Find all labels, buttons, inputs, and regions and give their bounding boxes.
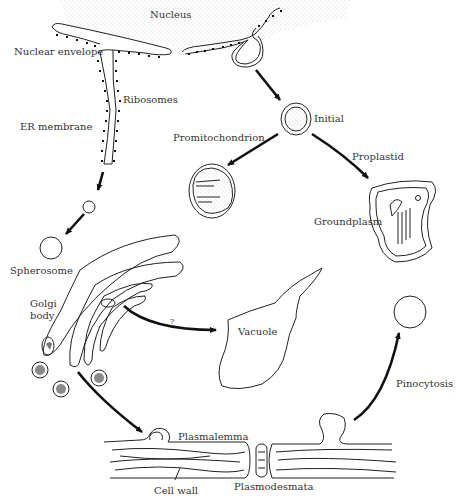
pinocytosis-vesicle [394, 296, 426, 328]
label-ribosomes: Ribosomes [123, 94, 178, 105]
cell-wall [104, 414, 396, 481]
label-pinocytosis: Pinocytosis [396, 378, 453, 389]
promitochondrion [189, 164, 235, 218]
label-spherosome: Spherosome [10, 265, 73, 276]
label-question: ? [170, 317, 174, 326]
label-plasmodesmata: Plasmodesmata [234, 481, 313, 492]
label-initial: Initial [314, 113, 344, 124]
initial-organelle [281, 103, 311, 135]
er-membrane [97, 50, 121, 164]
label-groundplasm: Groundplasm [314, 216, 383, 227]
cell-membrane-diagram: Nucleus Nuclear envelope Ribosomes ER me… [0, 0, 456, 504]
label-golgi: Golgi [30, 298, 57, 309]
label-plasmalemma: Plasmalemma [178, 431, 249, 442]
arrow-vesicle-to-spherosome [66, 214, 84, 234]
label-nucleus: Nucleus [150, 9, 191, 20]
er-vesicle [83, 201, 95, 213]
label-vacuole: Vacuole [237, 326, 278, 337]
label-proplastid: Proplastid [352, 151, 404, 162]
label-er-membrane: ER membrane [20, 121, 92, 132]
label-cell-wall: Cell wall [154, 485, 198, 496]
label-golgi-body: body [30, 310, 55, 321]
label-nuclear-envelope: Nuclear envelope [14, 46, 103, 57]
golgi-body [42, 235, 183, 367]
label-promitochondrion: Promitochondrion [173, 132, 265, 143]
nucleus [60, 0, 350, 51]
arrow-envelope-to-initial [256, 70, 280, 100]
spherosome [40, 237, 62, 259]
arrow-golgi-to-plasmalemma [78, 372, 142, 432]
arrow-er-to-vesicle [98, 172, 103, 190]
arrow-pinocytosis [354, 333, 399, 420]
